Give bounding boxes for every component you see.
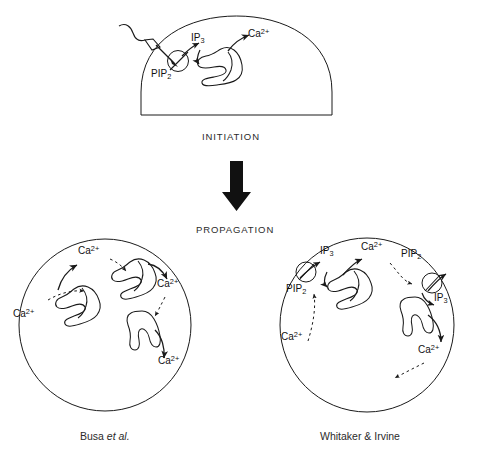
label-ca-busa-2: Ca2+ [78, 244, 99, 256]
label-ca-initiation: Ca2+ [248, 27, 269, 39]
label-ca-wi-1: Ca2+ [361, 240, 382, 252]
label-pip2-initiation: PIP2 [151, 68, 171, 81]
label-ca-busa-3: Ca2+ [157, 277, 178, 289]
label-ca-wi-2: Ca2+ [281, 330, 302, 342]
label-ip3-wi-1: IP3 [320, 245, 334, 258]
diffusion-ca-to-er2 [110, 259, 126, 271]
stage-label-propagation: PROPAGATION [196, 224, 274, 235]
release-erright-to-ca [428, 315, 441, 342]
downward-arrow-icon [222, 161, 251, 211]
caption-busa-italic: et al. [107, 430, 130, 442]
er-organelle [328, 269, 372, 309]
caption-whitaker-irvine: Whitaker & Irvine [320, 430, 400, 442]
label-pip2-wi-2: PIP2 [401, 248, 421, 261]
caption-busa-text: Busa [80, 430, 107, 442]
whitaker-irvine-model-cell [280, 238, 454, 412]
pip2-receptor-icon [422, 273, 442, 293]
release-erleft-to-ca [343, 259, 362, 275]
er-organelle [112, 259, 156, 299]
label-ip3-initiation: IP3 [191, 32, 205, 45]
diffusion-ca-to-er3 [155, 297, 165, 316]
label-ca-wi-3: Ca2+ [418, 343, 439, 355]
arrow-pip2-to-ip3 [182, 43, 199, 56]
label-ip3-wi-2: IP3 [434, 292, 448, 305]
release-er1-to-ca [58, 265, 77, 290]
label-ca-busa-4: Ca2+ [158, 354, 179, 366]
calcium-wave-figure: PIP2 IP3 Ca2+ INITIATION PROPAGATION Ca2… [0, 0, 478, 454]
busa-model-cell [19, 239, 191, 411]
label-pip2-wi-1: PIP2 [286, 283, 306, 296]
sperm-entry-icon [119, 25, 178, 67]
caption-busa: Busa et al. [80, 430, 130, 442]
arrow-ip3-to-er1 [324, 272, 327, 287]
label-ca-busa-1: Ca2+ [13, 307, 34, 319]
er-organelle [197, 48, 242, 86]
diffusion-ca-to-receptor2 [390, 263, 412, 284]
diffusion-ca-to-receptor1 [308, 294, 315, 341]
arrow-to-receptor1 [300, 262, 320, 278]
er-organelle [56, 286, 100, 326]
arrow-ip3-right [422, 293, 434, 305]
initiation-cell [119, 16, 332, 115]
diffusion-ca-bottom [395, 363, 424, 378]
stage-label-initiation: INITIATION [202, 131, 260, 142]
